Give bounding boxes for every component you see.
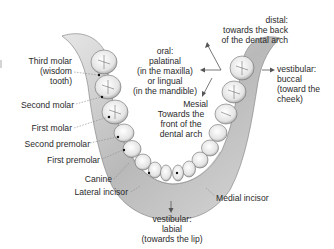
label-line: labial: [130, 224, 214, 234]
label-line: of the dental arch: [170, 35, 288, 45]
label-line: (toward the: [277, 84, 320, 94]
label-line: cheek): [277, 94, 320, 104]
label-canine: Canine: [60, 174, 112, 184]
edge-mark: [0, 60, 2, 68]
label-third-molar: Third molar (wisdom tooth): [20, 56, 72, 86]
label-line: tooth): [20, 76, 72, 86]
label-line: dental arch: [150, 129, 212, 139]
label-lateral-incisor: Lateral incisor: [60, 187, 128, 197]
label-title: vestibular:: [277, 64, 320, 74]
label-line: or lingual: [128, 76, 202, 86]
label-vestibular-buccal: vestibular: buccal (toward the cheek): [277, 64, 320, 104]
label-distal: distal: towards the back of the dental a…: [170, 15, 288, 45]
label-vestibular-labial: vestibular: labial (towards the lip): [130, 214, 214, 244]
label-second-molar: Second molar: [14, 100, 74, 110]
label-line: towards the back: [170, 25, 288, 35]
label-line: Towards the: [150, 109, 212, 119]
label-line: Third molar: [20, 56, 72, 66]
label-line: front of the: [150, 119, 212, 129]
label-oral: oral: palatinal (in the maxilla) or ling…: [128, 46, 202, 96]
label-title: Mesial: [150, 99, 212, 109]
label-title: distal:: [170, 15, 288, 25]
label-line: (towards the lip): [130, 234, 214, 244]
label-title: oral:: [128, 46, 202, 56]
label-line: palatinal: [128, 56, 202, 66]
label-first-premolar: First premolar: [30, 155, 100, 165]
label-line: (in the maxilla): [128, 66, 202, 76]
label-line: (in the mandible): [128, 86, 202, 96]
label-second-premolar: Second premolar: [10, 139, 90, 149]
label-first-molar: First molar: [14, 123, 72, 133]
label-mesial: Mesial Towards the front of the dental a…: [150, 99, 212, 139]
label-line: (wisdom: [20, 66, 72, 76]
label-line: buccal: [277, 74, 320, 84]
label-title: vestibular:: [130, 214, 214, 224]
label-medial-incisor: Medial incisor: [216, 193, 269, 203]
